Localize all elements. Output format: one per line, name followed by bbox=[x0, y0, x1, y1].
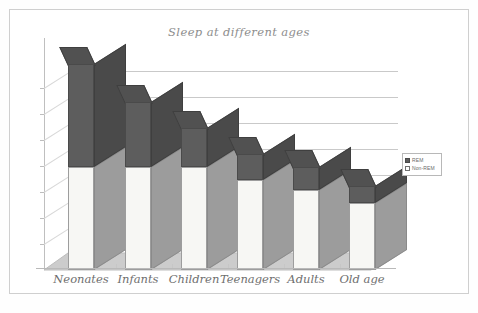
chart-legend[interactable]: REM Non-REM bbox=[402, 153, 442, 176]
bar-segment-nonrem[interactable] bbox=[125, 167, 151, 270]
bar-segment-nonrem[interactable] bbox=[68, 167, 94, 270]
bar-infants[interactable] bbox=[125, 38, 151, 270]
legend-swatch-rem-icon bbox=[405, 158, 410, 163]
x-axis-tick bbox=[284, 264, 285, 268]
chart-title: Sleep at different ages bbox=[0, 25, 478, 39]
bar-segment-nonrem[interactable] bbox=[293, 190, 319, 270]
bar-segment-rem[interactable] bbox=[181, 128, 207, 167]
x-axis-label-children: Children bbox=[164, 272, 224, 286]
x-axis-label-old-age: Old age bbox=[332, 272, 392, 286]
bar-segment-rem[interactable] bbox=[237, 154, 263, 180]
plot-area bbox=[40, 38, 395, 278]
bar-segment-rem[interactable] bbox=[349, 186, 375, 203]
legend-item-nonrem[interactable]: Non-REM bbox=[405, 164, 439, 172]
chart-figure: Sleep at different ages NeonatesInfantsC… bbox=[0, 0, 478, 313]
bar-old-age[interactable] bbox=[349, 38, 375, 270]
bar-segment-nonrem[interactable] bbox=[349, 203, 375, 270]
bar-segment-rem[interactable] bbox=[293, 167, 319, 190]
legend-label-rem: REM bbox=[412, 156, 423, 164]
bar-segment-nonrem[interactable] bbox=[237, 180, 263, 270]
x-axis-label-teenagers: Teenagers bbox=[220, 272, 280, 286]
bar-children[interactable] bbox=[181, 38, 207, 270]
bar-side-nonrem bbox=[94, 147, 126, 270]
bar-neonates[interactable] bbox=[68, 38, 94, 270]
legend-label-nonrem: Non-REM bbox=[412, 164, 435, 172]
bar-adults[interactable] bbox=[293, 38, 319, 270]
x-axis-tick bbox=[228, 264, 229, 268]
category-axis bbox=[36, 268, 396, 269]
bar-segment-nonrem[interactable] bbox=[181, 167, 207, 270]
x-axis-tick bbox=[172, 264, 173, 268]
bar-segment-rem[interactable] bbox=[125, 102, 151, 167]
x-axis-label-adults: Adults bbox=[276, 272, 336, 286]
legend-item-rem[interactable]: REM bbox=[405, 156, 439, 164]
x-axis-label-neonates: Neonates bbox=[51, 272, 111, 286]
bar-teenagers[interactable] bbox=[237, 38, 263, 270]
bar-side-nonrem bbox=[207, 147, 239, 270]
x-axis-tick bbox=[340, 264, 341, 268]
bar-side-rem bbox=[94, 44, 126, 167]
bar-side-nonrem bbox=[151, 147, 183, 270]
legend-swatch-nonrem-icon bbox=[405, 166, 410, 171]
x-axis-tick bbox=[116, 264, 117, 268]
bar-segment-rem[interactable] bbox=[68, 64, 94, 167]
x-axis-label-infants: Infants bbox=[108, 272, 168, 286]
